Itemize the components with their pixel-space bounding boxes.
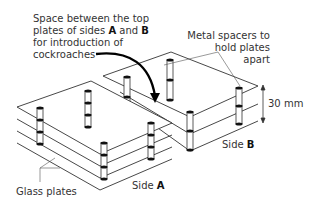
- spacers-label-line3: apart: [187, 54, 270, 66]
- text: Side: [132, 180, 157, 191]
- space-label-line3: for introduction of: [33, 37, 149, 49]
- glass-plates-label: Glass plates: [16, 186, 77, 198]
- space-label-line4: cockroaches: [33, 49, 149, 61]
- text: Side: [222, 139, 247, 150]
- spacers-label: Metal spacers to hold plates apart: [187, 30, 270, 66]
- space-label-line1: Space between the top: [33, 13, 149, 25]
- side-a-ref: A: [108, 25, 116, 36]
- side-b-letter: B: [247, 139, 255, 150]
- text: plates of sides: [33, 25, 108, 36]
- gap-label: 30 mm: [268, 98, 303, 110]
- side-b-label: Side B: [222, 139, 254, 151]
- spacers-label-line2: hold plates: [187, 42, 270, 54]
- side-a-label: Side A: [132, 180, 165, 192]
- spacers-label-line1: Metal spacers to: [187, 30, 270, 42]
- gap-dimension-arrow: [261, 85, 265, 123]
- side-a-letter: A: [157, 180, 165, 191]
- space-label-line2: plates of sides A and B: [33, 25, 149, 37]
- text: and: [116, 25, 141, 36]
- space-label: Space between the top plates of sides A …: [33, 13, 149, 61]
- side-b-ref: B: [141, 25, 149, 36]
